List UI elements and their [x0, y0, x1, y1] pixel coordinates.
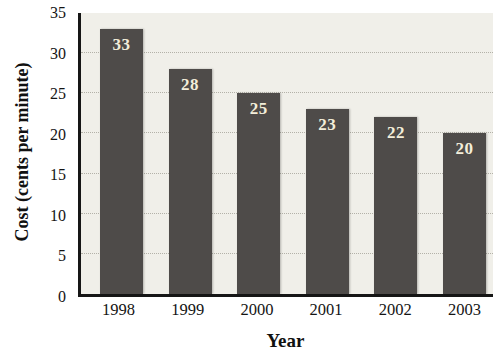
y-tick-label-0: 0: [58, 289, 66, 305]
y-tick-label-10: 10: [50, 208, 66, 224]
bar-1998: 33: [100, 29, 143, 294]
x-axis-tick-labels: 199819992000200120022003: [78, 302, 493, 319]
y-tick-label-5: 5: [58, 248, 66, 264]
bar-value-label: 23: [318, 115, 336, 135]
x-tick-label-1998: 1998: [97, 302, 140, 319]
bar-chart: Cost (cents per minute) 05101520253035 3…: [0, 0, 495, 360]
bar-value-label: 28: [181, 75, 199, 95]
x-tick-label-2003: 2003: [443, 302, 486, 319]
x-axis-title: Year: [78, 330, 493, 352]
bar-2002: 22: [374, 117, 417, 294]
bar-1999: 28: [169, 69, 212, 294]
bar-2000: 25: [237, 93, 280, 294]
plot-area: 332825232220: [78, 13, 493, 297]
x-tick-label-2002: 2002: [374, 302, 417, 319]
y-tick-label-25: 25: [50, 86, 66, 102]
bar-value-label: 22: [387, 123, 405, 143]
bars-row: 332825232220: [81, 13, 493, 294]
y-tick-label-20: 20: [50, 127, 66, 143]
bar-2003: 20: [443, 133, 486, 294]
x-tick-label-2001: 2001: [305, 302, 348, 319]
bar-value-label: 25: [250, 99, 268, 119]
bar-value-label: 33: [113, 35, 131, 55]
x-tick-label-2000: 2000: [235, 302, 278, 319]
x-tick-label-1999: 1999: [166, 302, 209, 319]
y-tick-label-15: 15: [50, 167, 66, 183]
bar-2001: 23: [306, 109, 349, 294]
y-axis-tick-labels: 05101520253035: [0, 13, 72, 297]
y-tick-label-35: 35: [50, 5, 66, 21]
bar-value-label: 20: [455, 139, 473, 159]
y-tick-label-30: 30: [50, 46, 66, 62]
